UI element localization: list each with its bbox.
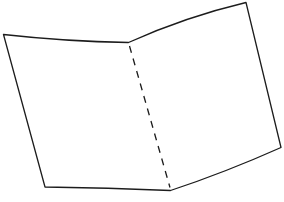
folded-paper-figure: [0, 0, 284, 202]
drawing-canvas: [0, 0, 284, 202]
paper-outline: [4, 3, 282, 191]
